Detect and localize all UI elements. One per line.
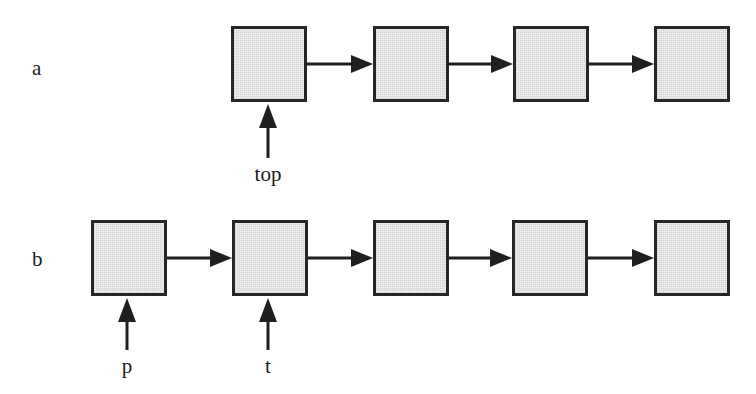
row-label-a: a [32, 58, 41, 79]
next-arrow-head-b-3 [490, 249, 512, 267]
pointer-label-top: top [255, 164, 282, 185]
next-arrow-head-a-3 [632, 55, 654, 73]
list-node-a-4 [654, 26, 730, 102]
pointer-label-p: p [122, 356, 133, 377]
list-node-a-1 [231, 26, 307, 102]
pointer-arrow-head-top [259, 104, 277, 128]
row-label-b: b [32, 249, 43, 270]
linked-list-diagram: atopbpt [0, 0, 756, 394]
list-node-a-2 [373, 26, 449, 102]
pointer-label-t: t [265, 356, 271, 377]
pointer-arrow-head-t [259, 298, 277, 322]
next-arrow-head-b-1 [210, 249, 232, 267]
list-node-b-4 [512, 220, 588, 296]
list-node-b-5 [654, 220, 730, 296]
next-arrow-head-a-1 [351, 55, 373, 73]
next-arrow-head-b-2 [351, 249, 373, 267]
pointer-arrow-head-p [118, 298, 136, 322]
list-node-b-3 [373, 220, 449, 296]
next-arrow-head-a-2 [491, 55, 513, 73]
list-node-b-2 [232, 220, 308, 296]
next-arrow-head-b-4 [632, 249, 654, 267]
list-node-a-3 [513, 26, 589, 102]
list-node-b-1 [91, 220, 167, 296]
